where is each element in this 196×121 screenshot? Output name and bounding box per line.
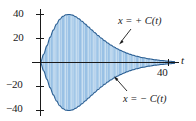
y-tick-label-40: 40 (13, 7, 24, 19)
y-tick-label-minus20: −20 (6, 78, 23, 90)
figure-container: 40 20 −20 −40 40 t x = + C(t) x = − C(t) (0, 0, 196, 121)
annotation-upper-envelope: x = + C(t) (118, 15, 162, 26)
y-tick-label-20: 20 (13, 31, 24, 43)
annotation-lower-envelope: x = − C(t) (123, 93, 167, 104)
x-axis-name: t (181, 54, 184, 66)
y-tick-label-minus40: −40 (6, 102, 23, 114)
x-tick-label-40: 40 (157, 66, 168, 78)
